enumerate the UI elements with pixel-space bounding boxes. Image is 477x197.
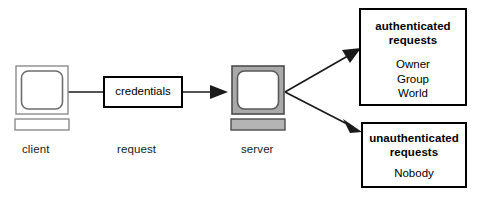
unauthenticated-box-title-line-1: unauthenticated xyxy=(360,131,468,145)
diagram-canvas: credentials authenticated requests Owner… xyxy=(0,0,477,197)
unauthenticated-box-title-line-2: requests xyxy=(360,145,468,159)
server-node-label: server xyxy=(241,143,274,156)
request-edge-label: request xyxy=(117,143,156,156)
unauthenticated-box-item-nobody: Nobody xyxy=(360,166,468,181)
client-node-label: client xyxy=(22,143,49,156)
